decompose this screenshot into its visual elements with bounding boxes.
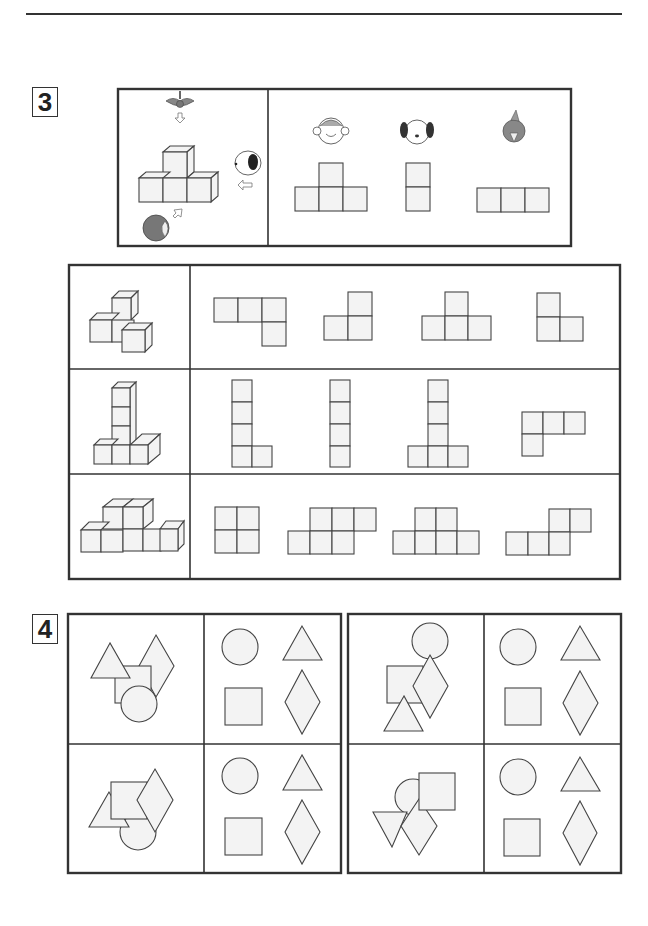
example-cube-stack: [139, 146, 218, 202]
row-3-cube-figure: [81, 499, 184, 552]
worksheet-drawing: [0, 0, 648, 926]
row-3-option-b[interactable]: [288, 508, 376, 554]
penguin-icon: [143, 215, 169, 241]
panel-top-left-choices[interactable]: [222, 626, 322, 734]
arrow-left-icon: [238, 180, 252, 190]
triangle-choice: [283, 626, 322, 660]
row-1-option-c[interactable]: [422, 292, 491, 340]
row-2-option-b[interactable]: [330, 380, 350, 467]
row-2-option-d[interactable]: [522, 412, 585, 456]
dog-view-shape: [406, 163, 430, 211]
row-2-cube-figure: [94, 382, 160, 464]
panel-bottom-left-composite: [89, 769, 173, 850]
panel-top-right-choices[interactable]: [500, 626, 600, 735]
row-3-option-d[interactable]: [506, 509, 591, 555]
bird-face-icon: [503, 110, 525, 142]
row-3-option-a[interactable]: [215, 507, 259, 553]
arrow-up-right-icon: [173, 209, 182, 218]
dog-face-icon: [400, 120, 434, 144]
dog-icon: [235, 151, 261, 175]
panel-bottom-right-composite: [373, 773, 455, 855]
row-2-option-c[interactable]: [408, 380, 468, 467]
bird-view-shape: [477, 188, 549, 212]
row-1-option-d[interactable]: [537, 293, 583, 341]
panel-bottom-right-choices[interactable]: [500, 757, 600, 865]
diamond-choice: [285, 670, 320, 734]
square-choice: [225, 688, 262, 725]
monkey-view-shape: [295, 163, 367, 211]
panel-bottom-left-choices[interactable]: [222, 755, 322, 864]
row-2-option-a[interactable]: [232, 380, 272, 467]
row-1-cube-figure: [90, 291, 152, 352]
row-3-option-c[interactable]: [393, 508, 479, 554]
panel-top-right-composite: [384, 623, 448, 731]
circle-choice: [222, 629, 258, 665]
row-1-option-a[interactable]: [214, 298, 286, 346]
row-1-option-b[interactable]: [324, 292, 372, 340]
arrow-down-icon: [175, 113, 185, 123]
monkey-icon: [313, 118, 349, 144]
bird-icon: [166, 91, 194, 108]
panel-top-left-composite: [91, 635, 174, 722]
